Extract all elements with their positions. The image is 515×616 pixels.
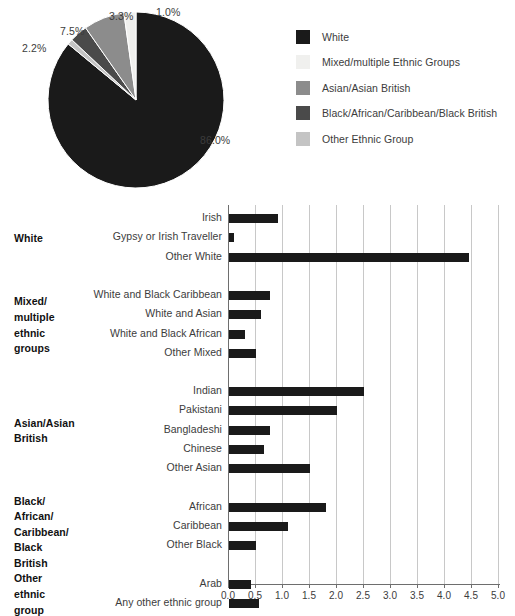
pie-legend: White Mixed/multiple Ethnic Groups Asian… [296,24,511,152]
bar-group-title: groups [14,342,50,354]
legend-item-asian: Asian/Asian British [296,75,511,101]
bar [229,541,256,550]
legend-label-other: Other Ethnic Group [322,133,413,145]
x-tick-label: 1.5 [302,590,316,601]
gridline [471,205,472,584]
bar [229,580,251,589]
pie-chart-section: 2.2% 7.5% 3.3% 1.0% 86.0% White Mixed/mu… [0,0,515,196]
x-tick-label: 3.5 [410,590,424,601]
pie-label-white: 86.0% [200,134,230,146]
bar-group-title: Black [14,541,42,553]
x-tick-label: 2.0 [329,590,343,601]
bar [229,406,337,415]
bar [229,291,270,300]
x-tick-mark [471,584,472,588]
bar [229,310,261,319]
bar [229,349,256,358]
pie-chart [46,10,226,190]
x-tick-label: 4.5 [464,590,478,601]
x-tick-label: 5.0 [491,590,505,601]
pie-label-other: 1.0% [156,6,180,18]
pie-label-black: 3.3% [109,10,133,22]
legend-label-asian: Asian/Asian British [322,82,411,94]
legend-label-white: White [322,31,349,43]
x-tick-mark [255,584,256,588]
bar-category-label: Indian [2,384,222,396]
x-axis-line [228,584,500,585]
gridline [417,205,418,584]
bar-group-title: Black/ [14,495,45,507]
legend-swatch-black [296,106,310,120]
legend-swatch-mixed [296,55,310,69]
bar-chart-plot-area: 0.00.51.01.52.02.53.03.54.04.55.0 [228,205,498,584]
bar [229,445,264,454]
bar-group-title: Asian/Asian [14,417,75,429]
x-tick-mark [309,584,310,588]
legend-swatch-white [296,30,310,44]
bar [229,503,326,512]
gridline [498,205,499,584]
pie-label-asian: 7.5% [60,25,84,37]
bar-group-title: ethnic [14,327,45,339]
pie-chart-svg [46,10,226,190]
bar [229,387,364,396]
bar-group-title: Caribbean/ [14,526,69,538]
gridline [444,205,445,584]
x-tick-mark [282,584,283,588]
bar [229,522,288,531]
bar-group-title: African/ [14,510,54,522]
bar-chart-section: IrishGypsy or Irish TravellerOther White… [0,196,515,615]
bar-group-title: White [14,232,43,244]
x-tick-mark [336,584,337,588]
bar [229,464,310,473]
legend-label-mixed: Mixed/multiple Ethnic Groups [322,56,460,68]
x-tick-label: 3.0 [383,590,397,601]
x-tick-label: 1.0 [275,590,289,601]
x-tick-label: 4.0 [437,590,451,601]
legend-swatch-asian [296,81,310,95]
gridline [390,205,391,584]
bar-category-label: Irish [2,211,222,223]
bar-group-title: Mixed/ [14,295,47,307]
bar-group-title: group [14,604,44,616]
bar-group-title: ethnic [14,588,45,600]
bar [229,330,245,339]
bar [229,426,270,435]
legend-swatch-other [296,132,310,146]
bar-group-title: Other [14,572,42,584]
bar-category-label: Other Asian [2,461,222,473]
bar [229,214,278,223]
bar-category-label: Other White [2,250,222,262]
x-tick-mark [390,584,391,588]
legend-item-black: Black/African/Caribbean/Black British [296,101,511,127]
bar [229,233,234,242]
bar [229,253,469,262]
x-tick-label: 2.5 [356,590,370,601]
bar-category-label: Pakistani [2,403,222,415]
x-tick-mark [444,584,445,588]
legend-item-other: Other Ethnic Group [296,126,511,152]
pie-label-mixed: 2.2% [22,42,46,54]
legend-item-mixed: Mixed/multiple Ethnic Groups [296,50,511,76]
legend-item-white: White [296,24,511,50]
bar-group-title: British [14,557,48,569]
bar-group-title: multiple [14,311,55,323]
x-tick-mark [363,584,364,588]
x-tick-mark [417,584,418,588]
x-tick-mark [498,584,499,588]
legend-label-black: Black/African/Caribbean/Black British [322,107,497,119]
bar-chart-category-labels: IrishGypsy or Irish TravellerOther White… [0,205,222,584]
bar-group-title: British [14,432,48,444]
bar [229,599,259,608]
